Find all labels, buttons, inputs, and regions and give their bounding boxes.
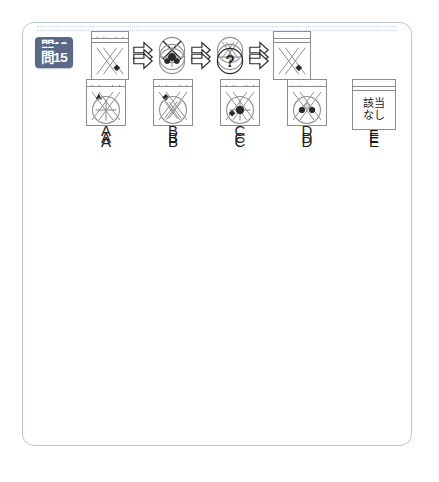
option-symbol-circle-double-x[interactable]: [153, 90, 193, 130]
sequence-row: ?: [91, 42, 311, 80]
circle-two-dots-icon: [157, 46, 187, 76]
double-x-diamond-box-icon: [273, 42, 311, 80]
none-of-these-box[interactable]: 該当なし: [352, 90, 396, 130]
option-c[interactable]: C: [213, 90, 267, 150]
quiz-panel: 問13?ABCD該当なしE 問14?ABCD該当なしE 問15?ABCD該当なし…: [22, 22, 412, 446]
option-label: C: [235, 133, 246, 150]
arrow-right-icon: [248, 50, 270, 72]
option-symbol-circle-cross-dot[interactable]: [220, 90, 260, 130]
section-divider: [37, 26, 397, 27]
option-symbol-circle-two-dots[interactable]: [287, 90, 327, 130]
none-label-line2: なし: [363, 110, 385, 122]
arrow-right-icon: [132, 50, 154, 72]
option-label: A: [101, 133, 111, 150]
arrow-right-icon: [190, 50, 212, 72]
double-x-diamond-box-icon: [91, 42, 129, 80]
question-number-badge: 問15: [35, 48, 73, 68]
option-label: D: [302, 133, 313, 150]
option-label: B: [168, 133, 178, 150]
option-a[interactable]: A: [79, 90, 133, 150]
svg-text:?: ?: [225, 53, 235, 70]
question-circle-icon: ?: [215, 46, 245, 76]
option-d[interactable]: D: [280, 90, 334, 150]
option-b[interactable]: B: [146, 90, 200, 150]
options-row: ABCD該当なしE: [79, 90, 401, 150]
option-label: E: [369, 133, 379, 150]
option-e[interactable]: 該当なしE: [347, 90, 401, 150]
option-symbol-circle-cross[interactable]: [86, 90, 126, 130]
